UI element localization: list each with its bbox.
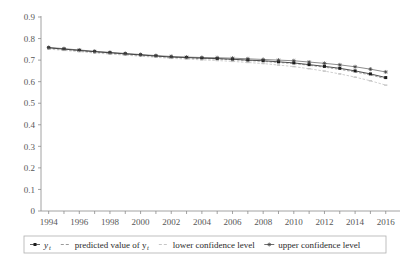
marker-star	[261, 57, 265, 61]
data-point-actual	[384, 76, 387, 79]
marker-star	[123, 51, 127, 55]
series-line-lower	[49, 49, 386, 85]
chart-legend: ytpredicted value of ytlower confidence …	[24, 236, 386, 253]
marker-star	[169, 54, 173, 58]
x-tick-label: 2008	[254, 217, 273, 227]
marker-star	[276, 58, 280, 62]
legend-label: upper confidence level	[278, 240, 360, 250]
y-tick-label: 0.5	[24, 98, 36, 108]
marker-star	[185, 55, 189, 59]
marker-star	[231, 56, 235, 60]
x-axis-ticks: 1994199619982000200220042006200820102012…	[40, 211, 396, 227]
legend-item-1[interactable]: predicted value of yt	[61, 240, 149, 251]
x-tick-label: 2014	[346, 217, 365, 227]
y-tick-label: 0.9	[24, 12, 36, 22]
marker-star	[62, 47, 66, 51]
marker-star	[292, 59, 296, 63]
series-line-predicted	[49, 48, 386, 78]
legend-item-2[interactable]: lower confidence level	[159, 240, 255, 250]
y-tick-label: 0.8	[24, 34, 36, 44]
x-tick-label: 1994	[40, 217, 59, 227]
legend-label: predicted value of y	[75, 240, 147, 250]
x-tick-label: 2016	[377, 217, 396, 227]
legend-item-3[interactable]: upper confidence level	[264, 240, 360, 250]
y-tick-label: 0	[31, 206, 36, 216]
marker-star	[77, 48, 81, 52]
chart-container: 00.10.20.30.40.50.60.70.80.9 19941996199…	[0, 0, 410, 264]
y-axis-ticks: 00.10.20.30.40.50.60.70.80.9	[24, 12, 41, 216]
marker-star	[322, 61, 326, 65]
marker-star	[139, 53, 143, 57]
y-tick-label: 0.2	[24, 163, 35, 173]
y-tick-label: 0.4	[24, 120, 36, 130]
marker-star	[246, 57, 250, 61]
marker-star	[368, 67, 372, 71]
x-tick-label: 1996	[70, 217, 89, 227]
marker-star	[338, 63, 342, 67]
marker-star	[108, 50, 112, 54]
x-tick-label: 2002	[162, 217, 180, 227]
marker-star	[93, 49, 97, 53]
data-point-actual	[369, 72, 372, 75]
legend-label-subscript: t	[49, 244, 51, 251]
y-tick-label: 0.6	[24, 77, 36, 87]
x-tick-label: 1998	[101, 217, 120, 227]
y-tick-label: 0.1	[24, 185, 35, 195]
x-tick-label: 2006	[224, 217, 243, 227]
marker-star	[200, 56, 204, 60]
legend-label: y	[43, 240, 48, 250]
x-tick-label: 2010	[285, 217, 304, 227]
marker-star	[353, 65, 357, 69]
marker-star	[215, 56, 219, 60]
x-tick-label: 2012	[315, 217, 333, 227]
x-tick-label: 2004	[193, 217, 212, 227]
data-point-actual	[338, 67, 341, 70]
data-point-actual	[354, 69, 357, 72]
y-tick-label: 0.3	[24, 142, 36, 152]
y-tick-label: 0.7	[24, 55, 36, 65]
series-lines	[49, 47, 386, 85]
marker-star	[384, 70, 388, 74]
legend-label: lower confidence level	[173, 240, 255, 250]
marker-star	[307, 60, 311, 64]
line-chart: 00.10.20.30.40.50.60.70.80.9 19941996199…	[0, 0, 410, 264]
marker-star	[47, 45, 51, 49]
marker-star	[154, 54, 158, 58]
legend-label-subscript: t	[147, 244, 149, 251]
x-tick-label: 2000	[132, 217, 151, 227]
